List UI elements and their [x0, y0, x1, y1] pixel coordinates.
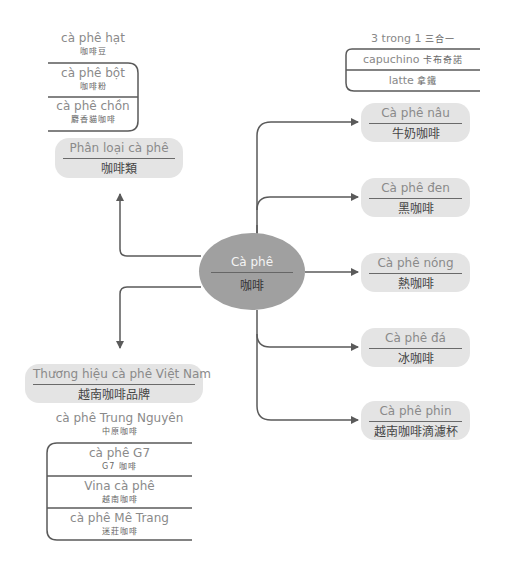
- subtopic-weasel-coffee[interactable]: cà phê chồn 麝香貓咖啡: [48, 99, 138, 125]
- subtopic-capuchino[interactable]: capuchino 卡布奇諾: [346, 52, 480, 68]
- topic-zh: 黑咖啡: [369, 201, 462, 217]
- subtopic-vi: cà phê Trung Nguyên: [47, 411, 192, 426]
- subtopic-latte[interactable]: latte 拿鐵: [346, 73, 480, 89]
- subtopic-vi: cà phê bột: [48, 66, 138, 81]
- subtopic-vi: latte: [389, 74, 414, 87]
- topic-vi: Cà phê phin: [369, 404, 462, 419]
- topic-vi: Cà phê nóng: [369, 256, 462, 271]
- topic-zh: 越南咖啡品牌: [33, 387, 195, 403]
- subtopic-vi: cà phê hạt: [48, 31, 138, 46]
- topic-vietnam-coffee-brands[interactable]: Thương hiệu cà phê Việt Nam 越南咖啡品牌: [25, 364, 203, 403]
- subtopic-vi: cà phê Mê Trang: [47, 511, 192, 526]
- subtopic-zh: 三合一: [425, 34, 455, 44]
- subtopic-zh: 越南咖啡: [47, 494, 192, 505]
- topic-phin-coffee[interactable]: Cà phê phin 越南咖啡滴濾杯: [361, 401, 470, 440]
- subtopic-vi: Vina cà phê: [47, 479, 192, 494]
- central-topic-vi: Cà phê: [199, 255, 305, 269]
- subtopic-ground-coffee[interactable]: cà phê bột 咖啡粉: [48, 66, 138, 92]
- subtopic-zh: 迷莊咖啡: [47, 526, 192, 537]
- subtopic-zh: 卡布奇諾: [423, 55, 463, 65]
- topic-vi: Phân loại cà phê: [63, 141, 175, 156]
- topic-black-coffee[interactable]: Cà phê đen 黑咖啡: [361, 178, 470, 217]
- divider: [369, 123, 462, 124]
- subtopic-trung-nguyen[interactable]: cà phê Trung Nguyên 中原咖啡: [47, 411, 192, 437]
- subtopic-zh: 咖啡豆: [48, 46, 138, 57]
- divider: [369, 273, 462, 274]
- divider: [369, 348, 462, 349]
- subtopic-zh: 咖啡粉: [48, 81, 138, 92]
- subtopic-vina[interactable]: Vina cà phê 越南咖啡: [47, 479, 192, 505]
- topic-zh: 咖啡類: [63, 161, 175, 177]
- subtopic-vi: capuchino: [363, 53, 420, 66]
- topic-vi: Thương hiệu cà phê Việt Nam: [33, 367, 195, 382]
- topic-vi: Cà phê đá: [369, 331, 462, 346]
- subtopic-zh: 拿鐵: [417, 76, 437, 86]
- topic-hot-coffee[interactable]: Cà phê nóng 熱咖啡: [361, 253, 470, 292]
- subtopic-g7[interactable]: cà phê G7 G7 咖啡: [47, 446, 192, 472]
- divider: [63, 158, 175, 159]
- divider: [369, 198, 462, 199]
- topic-vi: Cà phê nâu: [369, 106, 462, 121]
- topic-brown-coffee[interactable]: Cà phê nâu 牛奶咖啡: [361, 103, 470, 142]
- subtopic-zh: G7 咖啡: [47, 461, 192, 472]
- divider: [211, 272, 293, 273]
- topic-zh: 越南咖啡滴濾杯: [369, 424, 462, 440]
- topic-iced-coffee[interactable]: Cà phê đá 冰咖啡: [361, 328, 470, 367]
- central-topic-coffee[interactable]: Cà phê 咖啡: [199, 233, 305, 310]
- subtopic-vi: 3 trong 1: [371, 32, 421, 45]
- topic-vi: Cà phê đen: [369, 181, 462, 196]
- topic-coffee-categories[interactable]: Phân loại cà phê 咖啡類: [55, 138, 183, 178]
- subtopic-vi: cà phê G7: [47, 446, 192, 461]
- subtopic-three-in-one[interactable]: 3 trong 1 三合一: [346, 31, 480, 47]
- subtopic-me-trang[interactable]: cà phê Mê Trang 迷莊咖啡: [47, 511, 192, 537]
- divider: [369, 421, 462, 422]
- subtopic-coffee-beans[interactable]: cà phê hạt 咖啡豆: [48, 31, 138, 57]
- subtopic-zh: 麝香貓咖啡: [48, 114, 138, 125]
- subtopic-vi: cà phê chồn: [48, 99, 138, 114]
- subtopic-zh: 中原咖啡: [47, 426, 192, 437]
- divider: [33, 384, 195, 385]
- topic-zh: 熱咖啡: [369, 276, 462, 292]
- topic-zh: 冰咖啡: [369, 351, 462, 367]
- topic-zh: 牛奶咖啡: [369, 126, 462, 142]
- central-topic-zh: 咖啡: [199, 276, 305, 293]
